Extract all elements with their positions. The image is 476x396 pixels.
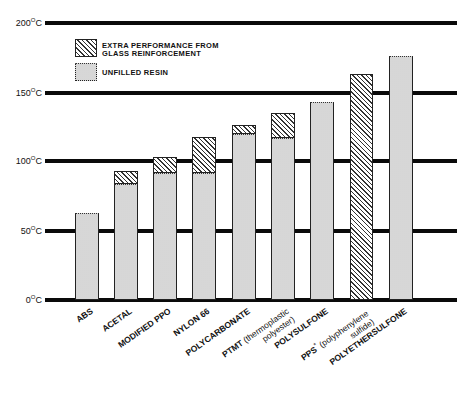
bar-nylon-66 xyxy=(192,137,216,300)
bar-abs xyxy=(75,213,99,300)
segment-glass-reinforcement xyxy=(114,171,138,184)
ytick-50: 50OC xyxy=(2,225,42,236)
bar-pps xyxy=(350,74,373,300)
bar-ptmt xyxy=(271,113,295,300)
segment-glass-reinforcement xyxy=(271,113,295,138)
segment-unfilled-resin xyxy=(389,56,413,300)
ytick-0: 0OC xyxy=(2,294,42,305)
bar-polyethersulfone xyxy=(389,56,413,300)
legend-dotted-swatch xyxy=(75,63,97,81)
xlabel-abs: ABS xyxy=(74,306,94,324)
segment-unfilled-resin xyxy=(232,134,256,300)
segment-glass-reinforcement xyxy=(232,125,256,134)
legend-resin-label: UNFILLED RESIN xyxy=(102,69,168,77)
ytick-100: 100OC xyxy=(2,155,42,166)
segment-unfilled-resin xyxy=(153,173,177,300)
bar-acetal xyxy=(114,171,138,300)
segment-glass-reinforcement xyxy=(192,137,216,173)
legend-glass-label: EXTRA PERFORMANCE FROM GLASS REINFORCEME… xyxy=(102,42,219,58)
ytick-150: 150OC xyxy=(2,87,42,98)
segment-glass-reinforcement xyxy=(153,157,177,173)
gridline-200 xyxy=(45,21,457,25)
legend-hatched-swatch xyxy=(75,39,97,57)
ytick-200: 200OC xyxy=(2,17,42,28)
segment-unfilled-resin xyxy=(310,102,334,300)
bar-modified-ppo xyxy=(153,157,177,300)
bar-polysulfone xyxy=(310,102,334,300)
segment-unfilled-resin xyxy=(271,138,295,300)
segment-unfilled-resin xyxy=(75,213,99,300)
segment-unfilled-resin xyxy=(192,173,216,300)
bar-chart: 200OC 150OC 100OC 50OC 0OC EXTRA PERFORM… xyxy=(0,0,476,396)
segment-glass-reinforcement xyxy=(350,74,373,300)
bar-polycarbonate xyxy=(232,125,256,300)
segment-unfilled-resin xyxy=(114,184,138,300)
xlabel-acetal: ACETAL xyxy=(100,306,133,334)
